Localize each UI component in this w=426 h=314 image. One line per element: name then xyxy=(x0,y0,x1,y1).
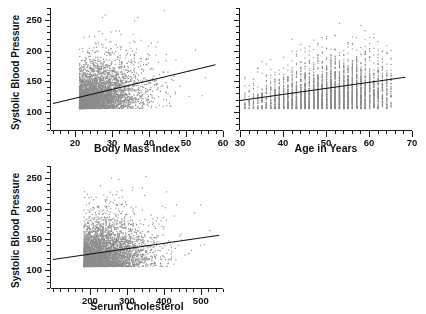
panel-serum-cholesterol: Systolic Blood Pressure Serum Cholestero… xyxy=(0,158,230,314)
y-minor-tick-1 xyxy=(236,39,239,40)
x-tick-label-1-3: 60 xyxy=(349,137,389,148)
y-minor-tick-1 xyxy=(236,75,239,76)
x-minor-tick-1 xyxy=(274,131,275,134)
y-minor-tick-2 xyxy=(47,197,50,198)
x-minor-tick-2 xyxy=(60,289,61,292)
y-minor-tick-2 xyxy=(47,282,50,283)
y-minor-tick-0 xyxy=(47,57,50,58)
x-major-tick-0-2 xyxy=(149,131,150,137)
plot-area-cholesterol xyxy=(51,166,223,288)
x-minor-tick-1 xyxy=(300,131,301,134)
y-minor-tick-0 xyxy=(47,45,50,46)
y-minor-tick-2 xyxy=(47,227,50,228)
y-tick-label-0-2: 200 xyxy=(17,45,42,56)
x-major-tick-0-1 xyxy=(112,131,113,137)
x-minor-tick-2 xyxy=(179,289,180,292)
y-minor-tick-2 xyxy=(47,233,50,234)
x-tick-label-0-0: 20 xyxy=(55,137,95,148)
y-minor-tick-0 xyxy=(47,39,50,40)
y-tick-label-2-0: 100 xyxy=(17,264,42,275)
x-minor-tick-1 xyxy=(403,131,404,134)
y-minor-tick-1 xyxy=(236,118,239,119)
x-major-tick-1-3 xyxy=(369,131,370,137)
y-minor-tick-0 xyxy=(47,26,50,27)
y-major-tick-1-0 xyxy=(234,112,240,113)
y-minor-tick-2 xyxy=(47,258,50,259)
x-minor-tick-0 xyxy=(105,131,106,134)
y-minor-tick-1 xyxy=(236,14,239,15)
x-tick-label-1-2: 50 xyxy=(306,137,346,148)
y-minor-tick-0 xyxy=(47,14,50,15)
panel-age-in-years: Age in Years 3040506070 xyxy=(228,0,426,158)
x-axis-line-0 xyxy=(51,130,223,131)
x-minor-tick-0 xyxy=(68,131,69,134)
y-minor-tick-0 xyxy=(47,32,50,33)
x-minor-tick-1 xyxy=(378,131,379,134)
y-minor-tick-2 xyxy=(47,203,50,204)
x-minor-tick-2 xyxy=(208,289,209,292)
x-tick-label-2-0: 200 xyxy=(70,295,110,306)
scatter-figure: Systolic Blood Pressure Body Mass Index … xyxy=(0,0,426,314)
y-major-tick-1-1 xyxy=(234,81,240,82)
y-major-tick-0-1 xyxy=(45,81,51,82)
x-minor-tick-2 xyxy=(119,289,120,292)
x-minor-tick-2 xyxy=(97,289,98,292)
x-minor-tick-0 xyxy=(60,131,61,134)
y-minor-tick-0 xyxy=(47,124,50,125)
x-minor-tick-1 xyxy=(335,131,336,134)
y-minor-tick-1 xyxy=(236,57,239,58)
x-minor-tick-1 xyxy=(317,131,318,134)
x-minor-tick-2 xyxy=(186,289,187,292)
y-minor-tick-2 xyxy=(47,166,50,167)
scatter-points-cholesterol xyxy=(51,166,223,288)
x-minor-tick-2 xyxy=(112,289,113,292)
y-major-tick-0-0 xyxy=(45,112,51,113)
y-major-tick-2-1 xyxy=(45,239,51,240)
y-minor-tick-2 xyxy=(47,215,50,216)
y-minor-tick-1 xyxy=(236,130,239,131)
y-minor-tick-2 xyxy=(47,172,50,173)
y-minor-tick-1 xyxy=(236,69,239,70)
x-minor-tick-1 xyxy=(257,131,258,134)
x-minor-tick-0 xyxy=(216,131,217,134)
x-minor-tick-1 xyxy=(292,131,293,134)
y-major-tick-1-3 xyxy=(234,20,240,21)
x-major-tick-0-0 xyxy=(75,131,76,137)
x-minor-tick-1 xyxy=(266,131,267,134)
y-tick-label-2-2: 200 xyxy=(17,203,42,214)
y-minor-tick-2 xyxy=(47,251,50,252)
y-minor-tick-0 xyxy=(47,69,50,70)
x-major-tick-1-4 xyxy=(412,131,413,137)
x-minor-tick-2 xyxy=(149,289,150,292)
y-minor-tick-1 xyxy=(236,63,239,64)
x-minor-tick-0 xyxy=(97,131,98,134)
y-major-tick-0-3 xyxy=(45,20,51,21)
x-minor-tick-0 xyxy=(53,131,54,134)
x-minor-tick-0 xyxy=(171,131,172,134)
y-minor-tick-2 xyxy=(47,190,50,191)
x-minor-tick-0 xyxy=(82,131,83,134)
x-minor-tick-1 xyxy=(249,131,250,134)
x-minor-tick-2 xyxy=(53,289,54,292)
x-minor-tick-1 xyxy=(352,131,353,134)
x-minor-tick-0 xyxy=(119,131,120,134)
y-major-tick-2-2 xyxy=(45,209,51,210)
y-tick-label-0-1: 150 xyxy=(17,75,42,86)
x-minor-tick-2 xyxy=(82,289,83,292)
y-minor-tick-0 xyxy=(47,130,50,131)
y-minor-tick-1 xyxy=(236,124,239,125)
y-minor-tick-2 xyxy=(47,264,50,265)
y-minor-tick-1 xyxy=(236,100,239,101)
x-minor-tick-0 xyxy=(208,131,209,134)
x-minor-tick-0 xyxy=(156,131,157,134)
x-major-tick-1-2 xyxy=(326,131,327,137)
y-major-tick-0-2 xyxy=(45,51,51,52)
y-minor-tick-1 xyxy=(236,93,239,94)
x-minor-tick-1 xyxy=(343,131,344,134)
y-minor-tick-2 xyxy=(47,184,50,185)
y-minor-tick-1 xyxy=(236,87,239,88)
x-minor-tick-0 xyxy=(127,131,128,134)
x-minor-tick-0 xyxy=(201,131,202,134)
x-minor-tick-0 xyxy=(134,131,135,134)
x-minor-tick-1 xyxy=(309,131,310,134)
